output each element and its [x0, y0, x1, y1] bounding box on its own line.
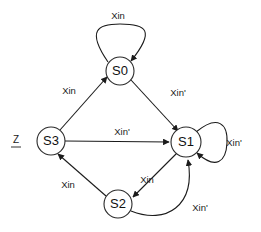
- edge-label-s2-to-s1: Xin': [192, 202, 208, 213]
- state-node-s1[interactable]: S1: [171, 127, 201, 157]
- edge-label-s0-self: Xin: [111, 10, 125, 21]
- edge-s0-self: [96, 24, 145, 62]
- output-label-z-text: Z: [13, 134, 19, 145]
- state-label-s2: S2: [110, 196, 126, 211]
- state-label-s3: S3: [43, 133, 59, 148]
- edge-label-s1-self: Xin': [226, 137, 242, 148]
- edge-label-s3-to-s0: Xin: [62, 85, 76, 96]
- edge-label-s3-to-s1: Xin': [114, 126, 130, 137]
- edge-s2-to-s3: [58, 154, 106, 196]
- edge-label-s1-to-s2: Xin: [140, 174, 154, 185]
- state-label-s1: S1: [178, 134, 194, 149]
- output-label-z: Z: [11, 134, 21, 147]
- state-node-s0[interactable]: S0: [106, 57, 134, 85]
- edge-label-s0-to-s1: Xin': [170, 87, 186, 98]
- edge-s2-to-s1: [131, 160, 189, 216]
- edge-label-s2-to-s3: Xin: [61, 179, 75, 190]
- fsm-canvas: S0 S1 S2 S3 Z Xin Xin Xin' Xin' Xin' Xin…: [0, 0, 261, 232]
- state-node-s3[interactable]: S3: [37, 127, 65, 155]
- state-node-s2[interactable]: S2: [104, 190, 132, 218]
- edge-s3-to-s1: [65, 141, 169, 142]
- state-label-s0: S0: [112, 63, 128, 78]
- state-machine-diagram: S0 S1 S2 S3 Z Xin Xin Xin' Xin' Xin' Xin…: [0, 0, 261, 232]
